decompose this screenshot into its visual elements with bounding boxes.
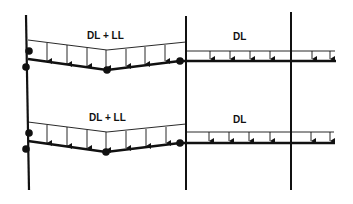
hinge-icon <box>103 66 111 74</box>
upper-left-load-line <box>28 40 186 50</box>
columns <box>26 12 291 190</box>
lower-right-load-arrows <box>209 132 330 141</box>
upper-right-load-label: DL <box>233 31 246 42</box>
hinge-icon <box>102 148 110 156</box>
hinge-icon <box>22 145 30 153</box>
hinge-icon <box>25 47 33 55</box>
frame-load-diagram: DL + LL DL <box>0 0 353 204</box>
hinge-icon <box>176 139 184 147</box>
hinge-icon <box>22 63 30 71</box>
lower-right-load-label: DL <box>233 114 246 125</box>
upper-floor: DL + LL DL <box>22 30 336 74</box>
lower-floor: DL + LL DL <box>22 112 335 156</box>
lower-left-load-label: DL + LL <box>89 112 126 123</box>
hinge-icon <box>25 129 33 137</box>
left-column <box>26 15 29 190</box>
upper-right-load-arrows <box>210 51 330 59</box>
hinge-icon <box>176 57 184 65</box>
upper-left-load-label: DL + LL <box>87 30 124 41</box>
lower-left-load-line <box>28 122 186 132</box>
